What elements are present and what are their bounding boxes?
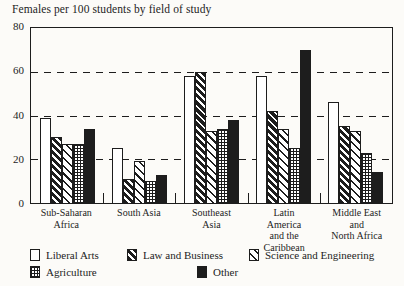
x-axis-category-label: Middle East and North Africa [320, 207, 393, 253]
legend-swatch-plain-white-icon [30, 249, 40, 261]
bar-other [228, 120, 239, 203]
bar-liberal-arts [256, 76, 267, 203]
legend-item-other: Other [197, 266, 238, 278]
legend-swatch-solid-black-icon [197, 266, 207, 278]
bar-agriculture [361, 153, 372, 203]
legend-item-agriculture: Agriculture [30, 266, 97, 278]
bar-other [372, 172, 383, 203]
bar-law-and-business [339, 126, 350, 203]
y-axis-tick-80: 80 [0, 21, 24, 32]
bar-liberal-arts [328, 102, 339, 203]
bar-science-and-engineering [278, 129, 289, 203]
bar-law-and-business [195, 72, 206, 203]
bar-other [300, 50, 311, 203]
bar-groups [31, 28, 392, 203]
bar-science-and-engineering [134, 161, 145, 203]
category-separator-tick [248, 193, 249, 203]
plot-area [30, 27, 393, 204]
legend-label: Other [213, 267, 238, 278]
bar-law-and-business [267, 111, 278, 203]
bar-group-3 [175, 28, 247, 203]
bar-agriculture [217, 129, 228, 203]
y-axis-tick-60: 60 [0, 65, 24, 76]
x-axis-labels: Sub-Saharan AfricaSouth AsiaSoutheast As… [30, 207, 393, 253]
x-axis-category-label: Latin America and the Caribbean [248, 207, 321, 253]
bar-liberal-arts [112, 148, 123, 203]
category-separator-tick [320, 193, 321, 203]
x-axis-category-label: Sub-Saharan Africa [30, 207, 103, 253]
bar-group-1 [31, 28, 103, 203]
legend-swatch-light-diagonal-icon [249, 249, 259, 261]
x-axis-category-label: South Asia [103, 207, 176, 253]
chart-title: Females per 100 students by field of stu… [12, 3, 211, 15]
y-axis-tick-40: 40 [0, 110, 24, 121]
category-separator-tick [103, 193, 104, 203]
legend-label: Liberal Arts [46, 250, 99, 261]
bar-science-and-engineering [62, 144, 73, 203]
legend-swatch-dense-diagonal-icon [127, 249, 137, 261]
bar-group-5 [320, 28, 392, 203]
bar-other [156, 175, 167, 203]
bar-agriculture [73, 144, 84, 203]
bar-other [84, 129, 95, 203]
x-axis-category-label: Southeast Asia [175, 207, 248, 253]
bar-science-and-engineering [206, 131, 217, 203]
y-axis-tick-0: 0 [0, 198, 24, 209]
category-separator-tick [175, 193, 176, 203]
chart-figure: Females per 100 students by field of stu… [0, 0, 404, 286]
legend-label: Agriculture [46, 267, 97, 278]
bar-law-and-business [123, 179, 134, 203]
bar-group-4 [248, 28, 320, 203]
bar-agriculture [145, 181, 156, 203]
legend-item-science-and-engineering: Science and Engineering [249, 249, 374, 261]
legend-swatch-grid-dots-icon [30, 266, 40, 278]
bar-liberal-arts [40, 118, 51, 203]
legend-item-liberal-arts: Liberal Arts [30, 249, 99, 261]
legend-label: Law and Business [143, 250, 223, 261]
bar-group-2 [103, 28, 175, 203]
legend-item-law-and-business: Law and Business [127, 249, 223, 261]
bar-law-and-business [51, 137, 62, 203]
bar-agriculture [289, 148, 300, 203]
bar-science-and-engineering [350, 131, 361, 203]
y-axis-tick-20: 20 [0, 154, 24, 165]
legend-label: Science and Engineering [265, 250, 374, 261]
bar-liberal-arts [184, 76, 195, 203]
